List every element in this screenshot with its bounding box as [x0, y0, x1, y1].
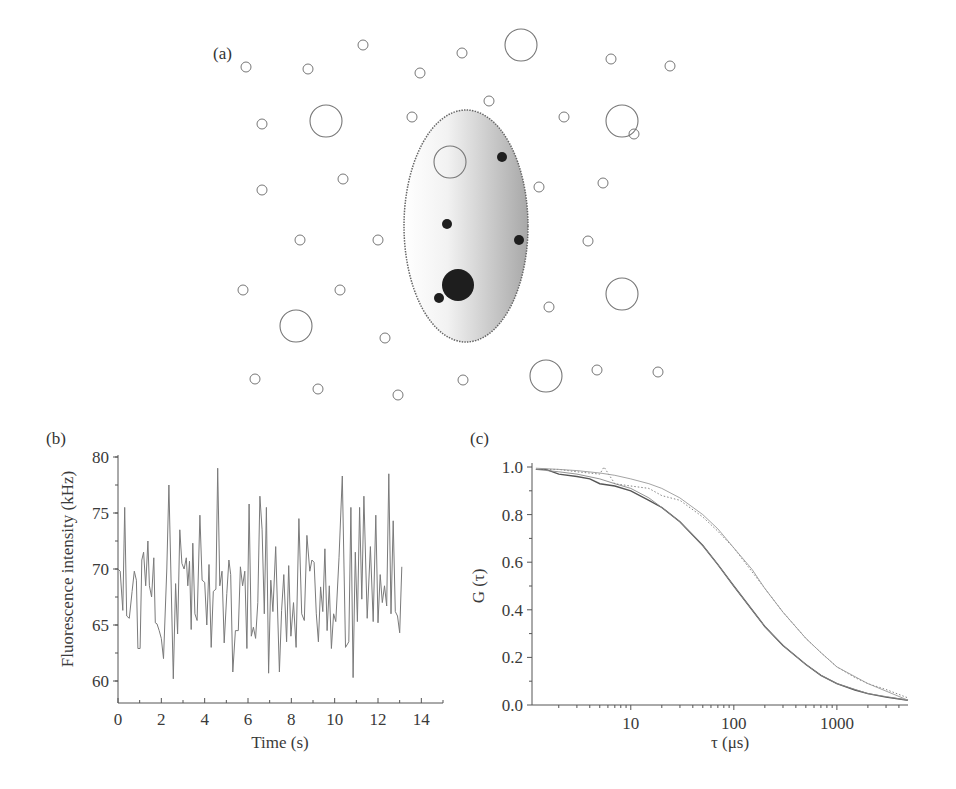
- autocorrelation-chart: 0.00.20.40.60.81.0101001000 τ (μs) G (τ): [469, 458, 908, 752]
- chart-c-xlabel: τ (μs): [711, 733, 749, 752]
- particle-open: [358, 40, 368, 50]
- chart-c-ylabel: G (τ): [469, 569, 488, 604]
- chart-c-series-line: [536, 469, 908, 700]
- particle-open: [457, 48, 467, 58]
- particle-open: [280, 310, 312, 342]
- chart-c-xtick: 10: [622, 714, 639, 733]
- particle-open: [373, 235, 383, 245]
- chart-b-xlabel: Time (s): [251, 733, 308, 752]
- particle-open: [592, 365, 602, 375]
- observation-volume: [404, 110, 528, 342]
- particle-open: [534, 182, 544, 192]
- chart-c-ytick: 0.6: [502, 553, 523, 572]
- particle-open: [606, 54, 616, 64]
- diffusion-diagram: [238, 29, 675, 400]
- chart-c-series: [536, 467, 908, 700]
- particle-open: [380, 333, 390, 343]
- particle-open: [295, 235, 305, 245]
- chart-b-xtick: 2: [157, 710, 166, 729]
- chart-c-ytick: 1.0: [502, 458, 523, 477]
- chart-c-axes: 0.00.20.40.60.81.0101001000: [502, 458, 908, 733]
- chart-c-ytick: 0.2: [502, 648, 523, 667]
- particle-open: [606, 105, 638, 137]
- chart-c-series-line: [536, 467, 908, 698]
- chart-c-ytick: 0.0: [502, 696, 523, 715]
- particle-open: [665, 61, 675, 71]
- chart-c-ytick: 0.4: [502, 601, 524, 620]
- particle-open: [458, 375, 468, 385]
- particle-open: [559, 112, 569, 122]
- particle-open: [544, 302, 554, 312]
- particle-open: [257, 119, 267, 129]
- intensity-trace-chart: 606570758002468101214 Time (s) Fluoresce…: [58, 448, 443, 752]
- chart-b-ytick: 75: [92, 504, 109, 523]
- chart-b-xtick: 8: [287, 710, 296, 729]
- chart-c-series-line: [536, 469, 908, 700]
- particle-open: [310, 105, 342, 137]
- particle-open: [598, 178, 608, 188]
- chart-c-xtick: 1000: [820, 714, 854, 733]
- chart-c-ytick: 0.8: [502, 506, 523, 525]
- chart-b-xtick: 6: [244, 710, 253, 729]
- chart-b-series-line: [118, 468, 402, 679]
- particle-open: [250, 374, 260, 384]
- particle-open: [415, 68, 425, 78]
- particle-open: [238, 285, 248, 295]
- particle-filled: [442, 269, 474, 301]
- particle-filled: [497, 152, 507, 162]
- particle-open: [335, 285, 345, 295]
- chart-b-ytick: 70: [92, 560, 109, 579]
- chart-b-xtick: 10: [326, 710, 343, 729]
- particle-open: [338, 174, 348, 184]
- particle-open: [393, 390, 403, 400]
- chart-b-ytick: 65: [92, 616, 109, 635]
- chart-b-xtick: 4: [200, 710, 209, 729]
- particle-open: [606, 278, 638, 310]
- particle-open: [407, 112, 417, 122]
- chart-c-xtick: 100: [721, 714, 747, 733]
- particle-open: [303, 64, 313, 74]
- particle-open: [484, 96, 494, 106]
- particle-filled: [434, 293, 444, 303]
- chart-b-xtick: 14: [413, 710, 431, 729]
- particle-open: [505, 29, 537, 61]
- chart-b-ytick: 60: [92, 672, 109, 691]
- particle-open: [583, 236, 593, 246]
- particle-open: [241, 62, 251, 72]
- chart-c-series-line: [536, 468, 908, 700]
- particle-filled: [514, 235, 524, 245]
- chart-b-ylabel: Fluorescence intensity (kHz): [58, 471, 77, 667]
- chart-b-ytick: 80: [92, 448, 109, 467]
- figure-canvas: 606570758002468101214 Time (s) Fluoresce…: [0, 0, 956, 789]
- particle-open: [653, 367, 663, 377]
- chart-b-xtick: 12: [370, 710, 387, 729]
- particle-open: [257, 185, 267, 195]
- particle-open: [313, 384, 323, 394]
- particle-filled: [442, 219, 452, 229]
- particle-open: [530, 360, 562, 392]
- chart-b-xtick: 0: [114, 710, 123, 729]
